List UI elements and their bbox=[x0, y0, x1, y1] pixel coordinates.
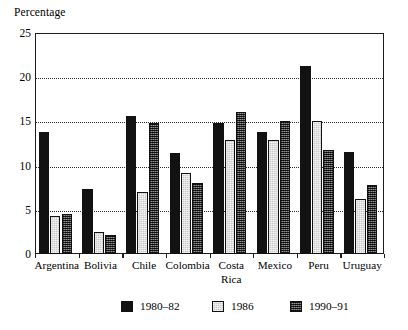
x-axis-tick bbox=[384, 254, 385, 258]
x-axis-tick-label-bolivia: Bolivia bbox=[84, 259, 117, 273]
x-axis-tick-labels: ArgentinaBoliviaChileColombiaCosta RicaM… bbox=[0, 259, 408, 299]
plot-area bbox=[35, 33, 384, 254]
x-axis-tick bbox=[35, 254, 36, 258]
x-axis-tick-label-costa-rica: Costa Rica bbox=[219, 259, 244, 286]
y-tick-label-20: 20 bbox=[1, 71, 31, 83]
legend-label: 1990–91 bbox=[309, 300, 349, 312]
legend-label: 1986 bbox=[231, 300, 254, 312]
y-tick-label-25: 25 bbox=[1, 27, 31, 39]
gridline-15 bbox=[36, 122, 383, 123]
y-tick-label-15: 15 bbox=[1, 115, 31, 127]
legend-swatch-icon bbox=[290, 301, 302, 312]
x-axis-tick-label-peru: Peru bbox=[308, 259, 329, 273]
x-axis-tick bbox=[122, 254, 123, 258]
legend-swatch-icon bbox=[121, 301, 133, 312]
gridline-20 bbox=[36, 78, 383, 79]
y-axis-title: Percentage bbox=[14, 6, 65, 18]
x-axis-tick-label-chile: Chile bbox=[132, 259, 156, 273]
legend-item[interactable]: 1980–82 bbox=[121, 300, 180, 312]
x-axis-tick bbox=[297, 254, 298, 258]
y-tick-label-5: 5 bbox=[1, 204, 31, 216]
x-axis-tick bbox=[210, 254, 211, 258]
bar-chart: Percentage 0510152025 ArgentinaBoliviaCh… bbox=[0, 0, 408, 330]
gridline-10 bbox=[36, 167, 383, 168]
chart-legend: 1980–8219861990–91 bbox=[0, 300, 408, 322]
y-tick-label-10: 10 bbox=[1, 160, 31, 172]
x-axis-tick bbox=[79, 254, 80, 258]
x-axis-tick bbox=[253, 254, 254, 258]
legend-label: 1980–82 bbox=[140, 300, 180, 312]
x-axis-tick-label-uruguay: Uruguay bbox=[343, 259, 382, 273]
x-axis-tick bbox=[340, 254, 341, 258]
legend-item[interactable]: 1986 bbox=[212, 300, 254, 312]
gridline-5 bbox=[36, 211, 383, 212]
x-axis-tick-label-colombia: Colombia bbox=[166, 259, 210, 273]
x-axis-tick-label-mexico: Mexico bbox=[258, 259, 292, 273]
x-axis-tick-label-argentina: Argentina bbox=[35, 259, 80, 273]
legend-swatch-icon bbox=[212, 301, 224, 312]
x-axis-tick bbox=[166, 254, 167, 258]
y-axis-tick-labels: 0510152025 bbox=[0, 33, 31, 254]
legend-item[interactable]: 1990–91 bbox=[290, 300, 349, 312]
